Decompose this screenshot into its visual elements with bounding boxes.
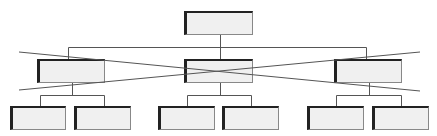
node-leaf-4: [222, 106, 279, 130]
node-mid-right: [334, 59, 402, 83]
node-mid-left: [37, 59, 105, 83]
node-leaf-5: [307, 106, 364, 130]
node-leaf-1: [10, 106, 66, 130]
node-leaf-6: [372, 106, 429, 130]
node-root: [184, 11, 253, 35]
node-leaf-3: [158, 106, 215, 130]
node-mid-center: [184, 59, 253, 83]
node-leaf-2: [74, 106, 131, 130]
